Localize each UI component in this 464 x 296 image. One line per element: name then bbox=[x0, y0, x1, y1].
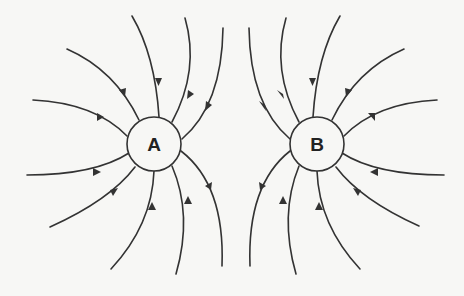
field-line bbox=[332, 49, 404, 120]
charge-b: B bbox=[290, 117, 344, 171]
field-line bbox=[336, 167, 419, 226]
charge-a-field-lines bbox=[27, 16, 223, 274]
charge-a: A bbox=[127, 117, 181, 171]
field-line bbox=[281, 18, 299, 122]
field-line bbox=[342, 153, 444, 175]
field-line bbox=[288, 166, 299, 274]
field-line bbox=[250, 151, 290, 266]
field-line bbox=[313, 16, 340, 117]
charge-b-field-lines bbox=[249, 16, 444, 274]
field-line bbox=[182, 28, 223, 139]
field-line bbox=[344, 100, 437, 136]
field-line bbox=[132, 16, 159, 117]
field-line bbox=[172, 166, 184, 274]
field-line bbox=[172, 18, 190, 122]
charge-a-label: A bbox=[147, 134, 161, 155]
field-line bbox=[181, 151, 222, 266]
field-line bbox=[33, 100, 127, 136]
field-line bbox=[27, 153, 129, 175]
charge-b-label: B bbox=[310, 134, 324, 155]
field-line bbox=[67, 49, 139, 120]
field-line bbox=[50, 167, 135, 227]
field-lines-diagram: A B bbox=[0, 0, 464, 296]
